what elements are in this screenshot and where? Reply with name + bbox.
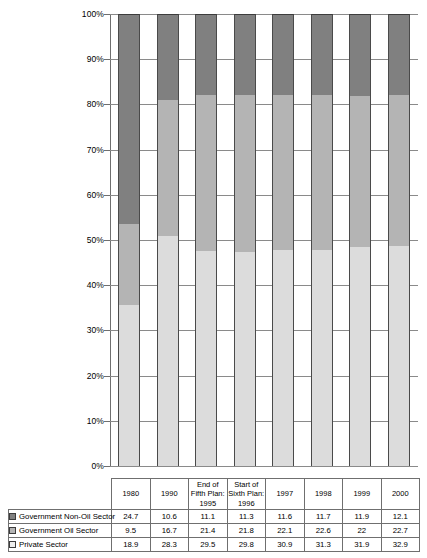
table-column-header: End of Fifth Plan: 1995	[189, 479, 228, 510]
table-cell-value: 28.3	[150, 538, 189, 552]
gridline	[110, 466, 418, 467]
segment-government-oil	[118, 224, 140, 305]
segment-government-non-oil	[388, 14, 410, 95]
table-cell-value: 10.6	[150, 510, 189, 524]
table-cell-value: 29.8	[227, 538, 266, 552]
segment-private	[388, 246, 410, 466]
table-column-header: 1999	[343, 479, 382, 510]
legend-label: Government Non-Oil Sector	[19, 512, 115, 521]
table-cell-value: 11.9	[343, 510, 382, 524]
segment-private	[272, 250, 294, 466]
table-cell-value: 22.7	[381, 524, 420, 538]
table-cell-value: 21.4	[189, 524, 228, 538]
data-table: 19801990End of Fifth Plan: 1995Start of …	[8, 478, 420, 552]
segment-government-non-oil	[157, 14, 179, 100]
bar-column	[388, 14, 410, 466]
segment-private	[195, 251, 217, 466]
table-body: Government Non-Oil Sector24.710.611.111.…	[9, 510, 420, 552]
y-axis-tick-labels: 0%10%20%30%40%50%60%70%80%90%100%	[60, 14, 104, 466]
segment-private	[157, 236, 179, 466]
table-cell-value: 31.9	[343, 538, 382, 552]
table-cell-value: 16.7	[150, 524, 189, 538]
legend-label: Government Oil Sector	[19, 526, 98, 535]
y-axis-tick	[104, 466, 110, 467]
table-row: Government Oil Sector9.516.721.421.822.1…	[9, 524, 420, 538]
table-cell-value: 31.3	[304, 538, 343, 552]
bar-column	[234, 14, 256, 466]
table-cell-value: 11.1	[189, 510, 228, 524]
segment-government-oil	[195, 95, 217, 251]
segment-government-oil	[272, 95, 294, 250]
legend-swatch-icon	[9, 527, 16, 534]
table-cell-value: 29.5	[189, 538, 228, 552]
y-axis-tick-label: 80%	[87, 100, 104, 109]
y-axis-tick-label: 10%	[87, 417, 104, 426]
table-column-header: 1990	[150, 479, 189, 510]
table-cell-value: 12.1	[381, 510, 420, 524]
bar-column	[157, 14, 179, 466]
segment-private	[311, 250, 333, 466]
bar-column	[311, 14, 333, 466]
table-cell-value: 32.9	[381, 538, 420, 552]
table-cell-value: 30.9	[266, 538, 305, 552]
table-column-header: 1997	[266, 479, 305, 510]
segment-government-oil	[311, 95, 333, 251]
plot-area: 0%10%20%30%40%50%60%70%80%90%100%	[0, 0, 427, 478]
legend-entry: Private Sector	[9, 538, 112, 552]
table-cell-value: 22.1	[266, 524, 305, 538]
table-header-corner	[9, 479, 112, 510]
segment-government-non-oil	[195, 14, 217, 95]
table-cell-value: 11.3	[227, 510, 266, 524]
segment-government-oil	[388, 95, 410, 247]
table-cell-value: 22	[343, 524, 382, 538]
segment-government-non-oil	[234, 14, 256, 95]
table-column-header: 1998	[304, 479, 343, 510]
segment-government-oil	[157, 100, 179, 236]
y-axis-tick-label: 20%	[87, 371, 104, 380]
y-axis-tick-label: 40%	[87, 281, 104, 290]
y-axis-tick-label: 90%	[87, 55, 104, 64]
bar-column	[195, 14, 217, 466]
table-cell-value: 11.6	[266, 510, 305, 524]
table-cell-value: 11.7	[304, 510, 343, 524]
table-column-header: 1980	[112, 479, 151, 510]
segment-government-non-oil	[118, 14, 140, 224]
y-axis-tick-label: 30%	[87, 326, 104, 335]
bar-series-group	[110, 14, 418, 466]
bar-column	[272, 14, 294, 466]
table-row: Private Sector18.928.329.529.830.931.331…	[9, 538, 420, 552]
table-column-header: 2000	[381, 479, 420, 510]
y-axis-tick-label: 100%	[82, 10, 104, 19]
y-axis-tick-label: 70%	[87, 145, 104, 154]
segment-government-non-oil	[349, 14, 371, 96]
y-axis-tick-label: 50%	[87, 236, 104, 245]
legend-entry: Government Non-Oil Sector	[9, 510, 112, 524]
table-header-row: 19801990End of Fifth Plan: 1995Start of …	[9, 479, 420, 510]
segment-private	[234, 252, 256, 466]
bar-column	[118, 14, 140, 466]
legend-swatch-icon	[9, 513, 16, 520]
chart-figure: 0%10%20%30%40%50%60%70%80%90%100% 198019…	[0, 0, 427, 558]
table-row: Government Non-Oil Sector24.710.611.111.…	[9, 510, 420, 524]
segment-private	[349, 247, 371, 466]
legend-label: Private Sector	[19, 540, 68, 549]
table-cell-value: 9.5	[112, 524, 151, 538]
legend-swatch-icon	[9, 541, 16, 548]
segment-government-non-oil	[311, 14, 333, 95]
segment-government-oil	[234, 95, 256, 252]
bar-column	[349, 14, 371, 466]
segment-government-non-oil	[272, 14, 294, 95]
segment-private	[118, 305, 140, 466]
table-cell-value: 22.6	[304, 524, 343, 538]
legend-entry: Government Oil Sector	[9, 524, 112, 538]
table-cell-value: 18.9	[112, 538, 151, 552]
y-axis-tick-label: 0%	[92, 462, 105, 471]
y-axis-tick-label: 60%	[87, 191, 104, 200]
table-cell-value: 21.8	[227, 524, 266, 538]
table-column-header: Start of Sixth Plan: 1996	[227, 479, 266, 510]
segment-government-oil	[349, 96, 371, 247]
table-cell-value: 24.7	[112, 510, 151, 524]
plot-canvas	[110, 14, 418, 466]
